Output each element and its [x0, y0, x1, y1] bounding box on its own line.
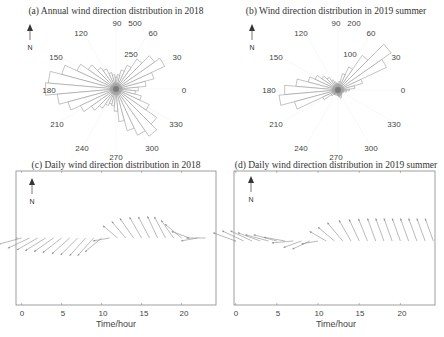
x-tick-15: 15: [356, 309, 365, 318]
north-arrow-icon: [246, 176, 256, 192]
quiver-chart-d: [0, 0, 444, 337]
x-axis-label: Time/hour: [316, 319, 356, 329]
north-arrow-d: N: [246, 176, 256, 203]
x-tick-0: 0: [234, 309, 238, 318]
x-tick-20: 20: [398, 309, 407, 318]
x-tick-5: 5: [276, 309, 280, 318]
x-tick-10: 10: [315, 309, 324, 318]
north-label: N: [246, 196, 256, 203]
